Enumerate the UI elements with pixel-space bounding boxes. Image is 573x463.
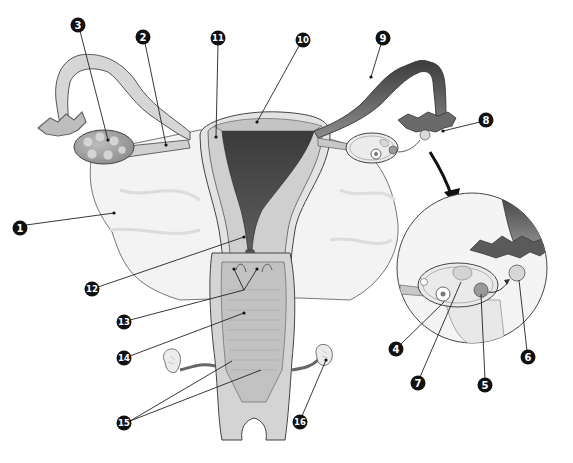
label-3: 3 <box>71 18 86 33</box>
label-13: 13 <box>117 315 132 330</box>
label-1: 1 <box>13 221 28 236</box>
svg-text:1: 1 <box>17 223 24 234</box>
svg-text:9: 9 <box>380 33 387 44</box>
leader-9 <box>371 44 381 77</box>
right-fimbriae <box>398 112 456 132</box>
svg-text:8: 8 <box>483 115 490 126</box>
svg-text:6: 6 <box>525 352 532 363</box>
label-15: 15 <box>117 416 132 431</box>
svg-text:13: 13 <box>118 317 130 327</box>
label-12: 12 <box>85 282 100 297</box>
label-2: 2 <box>136 30 151 45</box>
label-7: 7 <box>411 376 426 391</box>
svg-text:2: 2 <box>140 32 147 43</box>
svg-text:12: 12 <box>86 284 98 294</box>
svg-text:5: 5 <box>482 380 489 391</box>
leader-1 <box>26 213 114 225</box>
label-6: 6 <box>521 350 536 365</box>
right-ovary-cutaway <box>346 130 430 163</box>
label-11: 11 <box>211 31 226 46</box>
label-4: 4 <box>389 342 404 357</box>
left-fallopian-tube <box>38 54 190 140</box>
label-14: 14 <box>117 351 132 366</box>
reproductive-anatomy-diagram: 1 2 3 4 5 6 7 8 9 10 11 12 13 14 15 16 <box>0 0 573 463</box>
svg-text:3: 3 <box>75 20 82 31</box>
left-greater-vestibular-gland <box>163 349 215 373</box>
label-9: 9 <box>376 31 391 46</box>
label-8: 8 <box>479 113 494 128</box>
right-greater-vestibular-gland <box>292 344 332 370</box>
svg-text:14: 14 <box>118 353 130 363</box>
svg-text:15: 15 <box>118 418 130 428</box>
svg-text:11: 11 <box>212 33 224 43</box>
svg-text:10: 10 <box>297 35 309 45</box>
label-16: 16 <box>293 415 308 430</box>
vagina <box>210 253 295 440</box>
svg-text:7: 7 <box>415 378 422 389</box>
label-5: 5 <box>478 378 493 393</box>
svg-text:16: 16 <box>294 417 306 427</box>
svg-text:4: 4 <box>393 344 400 355</box>
label-10: 10 <box>296 33 311 48</box>
leader-10 <box>257 46 299 122</box>
ovary-inset <box>397 190 548 345</box>
leader-2 <box>145 43 166 145</box>
